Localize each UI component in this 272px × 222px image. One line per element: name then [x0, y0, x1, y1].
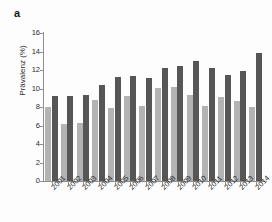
bar-light — [139, 106, 145, 181]
bar-group — [108, 33, 124, 181]
bar-light — [249, 107, 255, 181]
y-tick-label: 14 — [24, 48, 40, 56]
y-tick-label: 8 — [24, 103, 40, 111]
x-axis-tick-labels: 2001200220032004200520062007200820092010… — [44, 182, 266, 222]
bar-group — [45, 33, 61, 181]
bar-dark — [83, 95, 89, 181]
bar-group — [77, 33, 93, 181]
bar-dark — [52, 96, 58, 181]
plot-area — [44, 33, 264, 181]
y-tick-label: 10 — [24, 85, 40, 93]
bar-dark — [146, 78, 152, 181]
bar-dark — [115, 77, 121, 181]
bar-group — [234, 33, 250, 181]
y-axis-tick-labels: 1614121086420 — [22, 0, 40, 222]
bar-light — [218, 97, 224, 181]
bar-dark — [256, 53, 262, 181]
bar-group — [171, 33, 187, 181]
bar-light — [155, 88, 161, 181]
bar-light — [234, 101, 240, 181]
bar-group — [124, 33, 140, 181]
y-tick-label: 2 — [24, 159, 40, 167]
bar-dark — [240, 71, 246, 181]
y-tick-label: 6 — [24, 122, 40, 130]
bar-dark — [162, 68, 168, 181]
bar-light — [92, 100, 98, 181]
bar-group — [187, 33, 203, 181]
bar-group — [249, 33, 265, 181]
bar-dark — [209, 68, 215, 181]
y-tick-label: 0 — [24, 177, 40, 185]
bar-group — [202, 33, 218, 181]
bar-dark — [225, 75, 231, 181]
bar-light — [171, 87, 177, 181]
bar-light — [124, 96, 130, 181]
bar-group — [155, 33, 171, 181]
bar-light — [45, 107, 51, 181]
bar-light — [61, 124, 67, 181]
bar-dark — [177, 66, 183, 181]
bar-light — [202, 106, 208, 181]
bar-group — [92, 33, 108, 181]
bar-group — [61, 33, 77, 181]
bar-dark — [193, 61, 199, 181]
bar-light — [108, 108, 114, 181]
bar-light — [77, 123, 83, 181]
y-tick-label: 12 — [24, 66, 40, 74]
bar-dark — [99, 85, 105, 181]
bar-group — [218, 33, 234, 181]
figure-panel-a: a Prävalenz (%) 1614121086420 2001200220… — [0, 0, 272, 222]
bar-dark — [67, 96, 73, 181]
y-tick-label: 4 — [24, 140, 40, 148]
bar-group — [139, 33, 155, 181]
y-tick-label: 16 — [24, 29, 40, 37]
bar-light — [187, 95, 193, 181]
bar-dark — [130, 76, 136, 181]
